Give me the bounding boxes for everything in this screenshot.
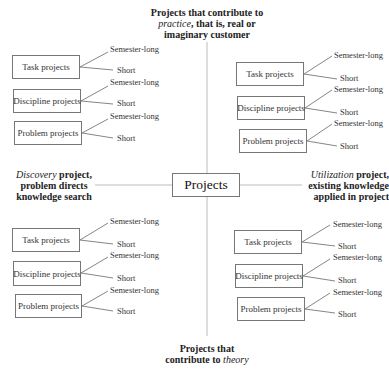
node-problem-projects: Problem projects	[15, 294, 82, 318]
caption-line: existing knowledge	[298, 180, 389, 191]
caption-italic: practice	[158, 18, 191, 29]
caption-text: contribute to	[165, 354, 223, 365]
branch-semester-long: Semester-long	[334, 50, 383, 60]
branch-short: Short	[117, 306, 135, 316]
caption-line: applied in project	[298, 191, 389, 202]
node-task-projects: Task projects	[12, 228, 80, 252]
caption-italic: Discovery	[16, 169, 57, 180]
node-discipline-projects: Discipline projects	[237, 96, 305, 120]
caption-top-practice: Projects that contribute to practice, th…	[130, 7, 284, 40]
branch-semester-long: Semester-long	[110, 216, 159, 226]
node-problem-projects: Problem projects	[239, 129, 307, 153]
branch-semester-long: Semester-long	[110, 285, 159, 295]
caption-line: imaginary customer	[130, 29, 284, 40]
node-task-projects: Task projects	[236, 62, 304, 86]
branch-semester-long: Semester-long	[333, 219, 382, 229]
branch-semester-long: Semester-long	[110, 44, 159, 54]
branch-semester-long: Semester-long	[334, 84, 383, 94]
branch-semester-long: Semester-long	[333, 252, 382, 262]
branch-short: Short	[340, 141, 358, 151]
branch-semester-long: Semester-long	[334, 118, 383, 128]
branch-semester-long: Semester-long	[110, 77, 159, 87]
caption-line: knowledge search	[10, 191, 98, 202]
caption-line: Discovery project,	[10, 169, 98, 180]
caption-left-discovery: Discovery project, problem directs knowl…	[10, 169, 98, 202]
branch-semester-long: Semester-long	[333, 287, 382, 297]
caption-text: , that is, real or	[191, 18, 256, 29]
caption-line: Projects that	[150, 343, 264, 354]
branch-short: Short	[117, 273, 135, 283]
node-problem-projects: Problem projects	[14, 121, 82, 145]
branch-short: Short	[338, 241, 356, 251]
caption-line: problem directs	[10, 180, 98, 191]
branch-short: Short	[117, 239, 135, 249]
caption-line: Utilization project,	[298, 169, 389, 180]
node-discipline-projects: Discipline projects	[13, 261, 81, 286]
branch-short: Short	[117, 98, 135, 108]
caption-line: practice, that is, real or	[130, 18, 284, 29]
branch-short: Short	[340, 107, 358, 117]
caption-line: Projects that contribute to	[130, 7, 284, 18]
node-problem-projects: Problem projects	[237, 297, 305, 321]
branch-short: Short	[338, 309, 356, 319]
caption-bottom-theory: Projects that contribute to theory	[150, 343, 264, 365]
node-task-projects: Task projects	[234, 230, 302, 254]
branch-semester-long: Semester-long	[110, 111, 159, 121]
node-discipline-projects: Discipline projects	[13, 89, 81, 113]
branch-short: Short	[340, 73, 358, 83]
caption-text: project,	[354, 169, 389, 180]
branch-short: Short	[117, 65, 135, 75]
branch-short: Short	[117, 133, 135, 143]
caption-line: contribute to theory	[150, 354, 264, 365]
caption-text: project,	[57, 169, 92, 180]
branch-semester-long: Semester-long	[110, 250, 159, 260]
node-task-projects: Task projects	[12, 55, 80, 79]
caption-italic: theory	[223, 354, 249, 365]
branch-short: Short	[338, 275, 356, 285]
node-discipline-projects: Discipline projects	[235, 264, 303, 288]
center-node-projects: Projects	[172, 173, 240, 197]
caption-italic: Utilization	[311, 169, 354, 180]
caption-right-utilization: Utilization project, existing knowledge …	[298, 169, 389, 202]
